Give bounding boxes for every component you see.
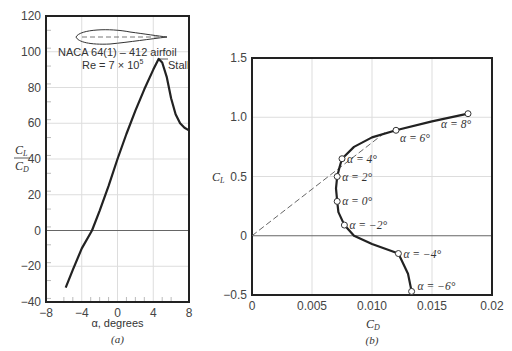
- figure: −40−20020406080100120−8−4048CLCDα, degre…: [0, 0, 512, 351]
- stall-label: Stall: [168, 59, 189, 71]
- alpha-label: α = 0°: [342, 195, 372, 207]
- y-tick-label: 120: [21, 9, 41, 23]
- alpha-label: α = −6°: [418, 280, 456, 292]
- x-tick-label: 0.02: [480, 299, 504, 313]
- data-point: α = −4°: [395, 248, 441, 260]
- x-tick-label: 4: [150, 306, 157, 320]
- y-tick-label: −20: [21, 259, 42, 273]
- point-marker-icon: [465, 111, 471, 117]
- point-marker-icon: [395, 251, 401, 257]
- alpha-label: α = −4°: [403, 248, 441, 260]
- y-tick-label: −0.5: [223, 288, 247, 302]
- point-marker-icon: [341, 222, 347, 228]
- point-marker-icon: [334, 198, 340, 204]
- panel-label: (a): [111, 333, 124, 346]
- alpha-label: α = 2°: [342, 171, 372, 183]
- y-tick-label: 80: [28, 81, 42, 95]
- airfoil-title: NACA 64(1) – 412 airfoil: [58, 46, 177, 58]
- y-tick-label: 40: [28, 152, 42, 166]
- point-marker-icon: [409, 288, 415, 294]
- cl-cd-curve: [66, 59, 189, 288]
- y-tick-label: 100: [21, 45, 41, 59]
- chart-b: −0.500.51.01.500.0050.0100.0150.02CLCD(b…: [212, 51, 504, 347]
- y-tick-label: 1.5: [230, 51, 247, 65]
- alpha-label: α = 8°: [441, 118, 471, 130]
- y-axis-label: CL: [212, 170, 225, 185]
- x-tick-label: 0.010: [357, 299, 387, 313]
- x-axis-label: CD: [366, 317, 380, 332]
- data-point: α = −6°: [409, 280, 456, 294]
- y-tick-label: 1.0: [230, 110, 247, 124]
- svg-text:CL: CL: [15, 143, 28, 158]
- x-tick-label: −8: [39, 306, 53, 320]
- y-tick-label: 60: [28, 116, 42, 130]
- point-marker-icon: [339, 156, 345, 162]
- data-point: α = 8°: [441, 111, 471, 130]
- x-axis-label: α, degrees: [91, 317, 144, 329]
- y-tick-label: 0.5: [230, 170, 247, 184]
- x-tick-label: 0.015: [417, 299, 447, 313]
- y-tick-label: 20: [28, 188, 42, 202]
- y-tick-label: 0: [34, 224, 41, 238]
- panel-label: (b): [366, 334, 379, 347]
- data-point: α = 0°: [334, 195, 372, 207]
- x-tick-label: 0: [249, 299, 256, 313]
- alpha-label: α = 4°: [347, 153, 377, 165]
- chart-a: −40−20020406080100120−8−4048CLCDα, degre…: [14, 9, 193, 346]
- y-tick-label: 0: [240, 229, 247, 243]
- data-point: α = 2°: [334, 171, 372, 183]
- x-tick-label: 0.005: [297, 299, 327, 313]
- x-tick-label: −4: [75, 306, 89, 320]
- alpha-label: α = 6°: [400, 132, 430, 144]
- x-tick-label: 8: [186, 306, 193, 320]
- point-marker-icon: [334, 174, 340, 180]
- alpha-label: α = −2°: [349, 219, 387, 231]
- data-point: α = 6°: [393, 127, 430, 144]
- reynolds-label: Re = 7 × 105: [82, 58, 144, 71]
- point-marker-icon: [393, 127, 399, 133]
